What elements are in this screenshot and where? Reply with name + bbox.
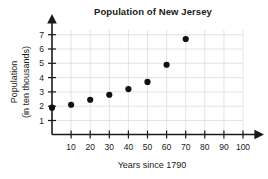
y-tick-label: 7: [39, 30, 44, 40]
x-tick-label: 30: [105, 142, 115, 152]
data-point: [106, 92, 112, 98]
x-tick-label: 20: [85, 142, 95, 152]
y-tick-label: 4: [39, 73, 44, 83]
y-axis-tick-labels: 1 2 3 4 5 6 7: [39, 30, 44, 126]
y-axis-label-line1: Population: [9, 61, 19, 104]
y-tick-label: 3: [39, 87, 44, 97]
x-axis-tick-labels: 10 20 30 40 50 60 70 80 90 100: [66, 142, 250, 152]
x-tick-label: 60: [162, 142, 172, 152]
data-point: [125, 86, 131, 92]
x-axis-label: Years since 1790: [118, 160, 187, 170]
data-point: [87, 97, 93, 103]
x-tick-label: 80: [200, 142, 210, 152]
y-tick-label: 2: [39, 101, 44, 111]
y-tick-label: 6: [39, 44, 44, 54]
data-point: [68, 102, 74, 108]
data-point: [164, 62, 170, 68]
data-point: [183, 36, 189, 42]
data-point: [144, 79, 150, 85]
chart-title: Population of New Jersey: [94, 6, 213, 17]
x-tick-label: 50: [143, 142, 153, 152]
x-tick-label: 70: [181, 142, 191, 152]
x-tick-label: 90: [219, 142, 229, 152]
population-scatter-chart: Population of New Jersey Population (in …: [0, 0, 268, 179]
x-tick-label: 40: [124, 142, 134, 152]
x-tick-label: 10: [66, 142, 76, 152]
y-axis-label: Population (in ten thousands): [9, 46, 31, 118]
vertical-gridlines: [71, 30, 243, 135]
y-axis-label-line2: (in ten thousands): [21, 46, 31, 118]
data-point: [49, 105, 55, 111]
y-tick-label: 1: [39, 116, 44, 126]
data-point-series: [49, 36, 189, 111]
y-tick-label: 5: [39, 58, 44, 68]
x-tick-label: 100: [236, 142, 250, 152]
